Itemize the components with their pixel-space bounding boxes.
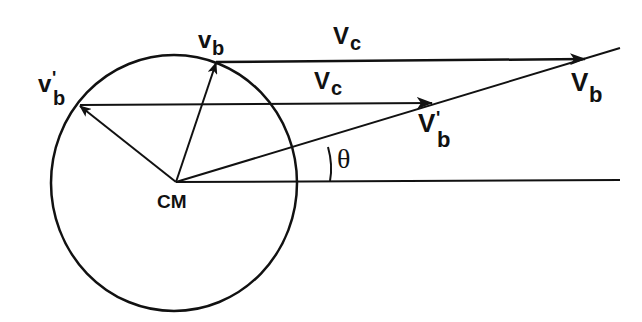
vector-vb-cm <box>176 63 216 182</box>
svg-text:c: c <box>331 77 342 99</box>
label-vc-mid: V c <box>314 67 342 99</box>
svg-text:b: b <box>437 127 450 152</box>
theta-arc <box>328 147 331 181</box>
svg-text:V: V <box>418 108 436 138</box>
svg-text:b: b <box>212 37 224 59</box>
label-vc-top: V c <box>333 22 361 54</box>
label-vb-prime-small: v ' b <box>38 68 65 109</box>
svg-text:b: b <box>53 87 65 109</box>
svg-text:': ' <box>436 108 440 128</box>
svg-text:V: V <box>333 22 349 49</box>
svg-text:V: V <box>571 67 589 97</box>
label-vb-small: v b <box>198 26 224 59</box>
label-theta: θ <box>337 143 350 174</box>
svg-text:v: v <box>38 70 52 97</box>
label-vb-prime-lab: V ' b <box>418 108 450 152</box>
label-vb-lab: V b <box>571 67 602 107</box>
velocity-vector-diagram: v b v ' b V c V c V b V ' b θ CM <box>0 0 642 322</box>
vector-vc-top <box>216 59 585 62</box>
vector-vc-mid <box>80 103 432 105</box>
svg-text:V: V <box>314 67 330 94</box>
svg-text:v: v <box>198 26 212 53</box>
label-cm: CM <box>157 191 187 212</box>
reference-axis <box>176 180 620 182</box>
svg-text:': ' <box>52 68 56 88</box>
svg-text:b: b <box>589 82 602 107</box>
svg-text:c: c <box>350 32 361 54</box>
vector-vb-prime-cm <box>80 106 176 182</box>
lab-direction-line <box>176 48 620 182</box>
velocity-circle <box>51 55 297 311</box>
